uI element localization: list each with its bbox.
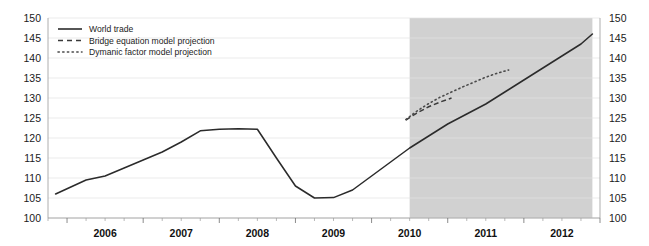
- y-axis-left-label-120: 120: [23, 132, 41, 144]
- x-axis-year-label-2008: 2008: [246, 227, 270, 239]
- y-axis-left-label-125: 125: [23, 112, 41, 124]
- x-axis-ticks: [48, 218, 600, 223]
- y-axis-left-label-145: 145: [23, 32, 41, 44]
- y-axis-left-labels: 100105110115120125130135140145150: [23, 12, 41, 224]
- y-axis-left-label-105: 105: [23, 192, 41, 204]
- y-axis-left-label-115: 115: [24, 152, 41, 164]
- x-axis-year-label-2007: 2007: [170, 227, 194, 239]
- x-axis-year-label-2011: 2011: [474, 227, 497, 239]
- y-axis-left-label-110: 110: [24, 172, 41, 184]
- x-axis-year-label-2012: 2012: [550, 227, 574, 239]
- y-axis-right-label-130: 130: [609, 92, 627, 104]
- chart-container: 100105110115120125130135140145150 100105…: [0, 0, 649, 246]
- y-axis-right-label-145: 145: [609, 32, 627, 44]
- y-axis-left-label-135: 135: [23, 72, 41, 84]
- y-axis-right-label-115: 115: [609, 152, 626, 164]
- y-axis-right-label-105: 105: [609, 192, 627, 204]
- legend-label-solid: World trade: [89, 24, 133, 34]
- y-axis-right-label-150: 150: [609, 12, 627, 24]
- y-axis-left-label-150: 150: [23, 12, 41, 24]
- legend-label-dashed: Bridge equation model projection: [89, 36, 215, 46]
- y-axis-left-label-100: 100: [23, 212, 41, 224]
- x-axis-year-label-2009: 2009: [322, 227, 346, 239]
- y-axis-right-label-100: 100: [609, 212, 627, 224]
- x-axis-year-labels: 2006200720082009201020112012: [93, 227, 573, 239]
- y-axis-right-label-135: 135: [609, 72, 627, 84]
- x-axis-year-label-2010: 2010: [398, 227, 422, 239]
- y-axis-right-label-120: 120: [609, 132, 627, 144]
- y-axis-left-label-140: 140: [23, 52, 41, 64]
- legend-label-dotted: Dymanic factor model projection: [89, 47, 212, 57]
- x-axis-year-label-2006: 2006: [93, 227, 117, 239]
- line-chart-plot: 100105110115120125130135140145150 100105…: [0, 0, 649, 246]
- y-axis-right-label-110: 110: [609, 172, 626, 184]
- y-axis-right-labels: 100105110115120125130135140145150: [609, 12, 627, 224]
- y-axis-right-label-140: 140: [609, 52, 627, 64]
- y-axis-right-label-125: 125: [609, 112, 627, 124]
- y-axis-left-label-130: 130: [23, 92, 41, 104]
